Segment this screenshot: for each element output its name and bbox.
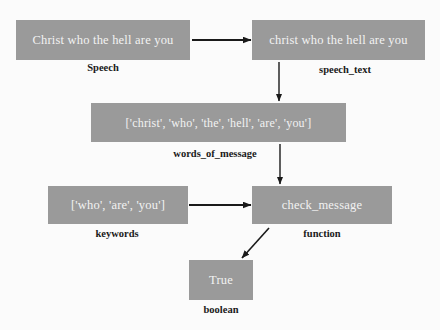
flow-diagram: Christ who the hell are you Speech chris… <box>0 0 440 330</box>
node-words-of-message: ['christ', 'who', 'the', 'hell', 'are', … <box>91 103 346 142</box>
node-keywords: ['who', 'are', 'you'] <box>48 186 188 224</box>
node-label-keywords: keywords <box>95 229 138 240</box>
node-speech: Christ who the hell are you <box>16 20 190 60</box>
edge-check-message-to-boolean <box>242 228 269 258</box>
node-speech-text: christ who the hell are you <box>252 20 425 60</box>
node-boolean: True <box>189 260 253 300</box>
node-label-speech-text: speech_text <box>319 65 371 76</box>
node-check-message: check_message <box>252 186 392 224</box>
node-label-boolean: boolean <box>203 305 238 316</box>
node-label-function: function <box>303 229 340 240</box>
node-label-words-of-message: words_of_message <box>173 149 256 160</box>
node-label-speech: Speech <box>87 63 119 74</box>
